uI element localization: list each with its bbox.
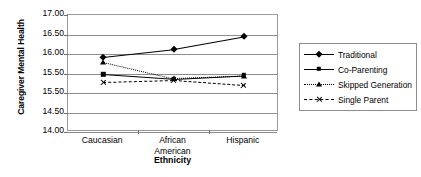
x-axis-tick-mark (138, 130, 139, 134)
data-point-marker-triangle (241, 73, 247, 78)
y-axis-tick-label: 16.00 (20, 48, 64, 57)
y-axis-tick-mark (64, 74, 68, 75)
y-axis-tick-label: 16.50 (20, 29, 64, 38)
data-point-marker-cross (100, 79, 107, 86)
data-point-marker-triangle (316, 82, 322, 87)
data-point-marker-triangle (100, 59, 106, 64)
legend-label: Traditional (338, 50, 377, 60)
gridline (68, 113, 277, 114)
data-point-marker-square (101, 72, 105, 76)
caregiver-mental-health-line-chart: Caregiver Mental Health 17.0016.5016.001… (0, 0, 421, 177)
data-point-marker-cross (240, 82, 247, 89)
data-point-marker-diamond (316, 51, 322, 57)
x-axis-tick-label: Hispanic (203, 135, 283, 146)
legend-sample-square-icon (304, 64, 334, 75)
y-axis-tick-mark (64, 15, 68, 16)
legend-item[interactable]: Traditional (300, 47, 416, 62)
y-axis-tick-labels: 17.0016.5016.0015.5015.5014.5014.00 (16, 0, 64, 177)
series-line-segment (173, 80, 243, 86)
data-point-marker-diamond (170, 46, 176, 52)
y-axis-tick-label: 17.00 (20, 9, 64, 18)
x-axis-tick-label: Caucasian (62, 135, 142, 146)
legend-label: Single Parent (338, 95, 388, 105)
series-line-segment (173, 76, 243, 79)
x-axis-title: Ethnicity (67, 155, 278, 165)
y-axis-tick-label: 15.50 (20, 68, 64, 77)
legend-item[interactable]: Co-Parenting (300, 62, 416, 77)
legend-label: Skipped Generation (338, 80, 412, 90)
y-axis-tick-mark (64, 35, 68, 36)
legend-item[interactable]: Skipped Generation (300, 77, 416, 92)
series-line-segment (173, 36, 243, 49)
x-axis-tick-label: African American (133, 135, 213, 156)
legend-sample-triangle-icon (304, 79, 334, 90)
y-axis-tick-label: 14.00 (20, 126, 64, 135)
data-point-marker-diamond (241, 33, 247, 39)
legend-item[interactable]: Single Parent (300, 92, 416, 107)
legend-sample-diamond-icon (304, 49, 334, 60)
x-axis-tick-mark (209, 130, 210, 134)
legend-sample-cross-icon (304, 94, 334, 105)
y-axis-tick-mark (64, 54, 68, 55)
legend-label: Co-Parenting (338, 65, 387, 75)
y-axis-tick-mark (64, 93, 68, 94)
legend: TraditionalCo-ParentingSkipped Generatio… (299, 43, 417, 111)
y-axis-tick-label: 15.50 (20, 87, 64, 96)
plot-area (67, 14, 278, 131)
y-axis-tick-mark (64, 113, 68, 114)
data-point-marker-cross (170, 77, 177, 84)
gridline (68, 93, 277, 94)
gridline (68, 54, 277, 55)
data-point-marker-square (317, 67, 321, 71)
data-point-marker-cross (316, 96, 323, 103)
y-axis-tick-mark (64, 132, 68, 133)
gridline (68, 132, 277, 133)
series-line-segment (103, 80, 173, 83)
y-axis-tick-label: 14.50 (20, 107, 64, 116)
